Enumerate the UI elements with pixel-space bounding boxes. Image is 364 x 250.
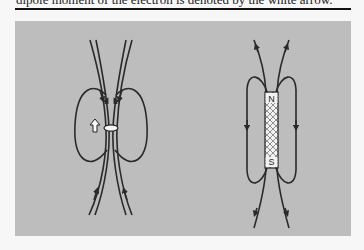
white-arrow-icon	[90, 119, 100, 132]
electron-icon	[104, 125, 118, 131]
north-pole-label: N	[268, 94, 275, 104]
field-diagrams: N S	[0, 0, 364, 250]
south-pole-label: S	[268, 157, 274, 167]
